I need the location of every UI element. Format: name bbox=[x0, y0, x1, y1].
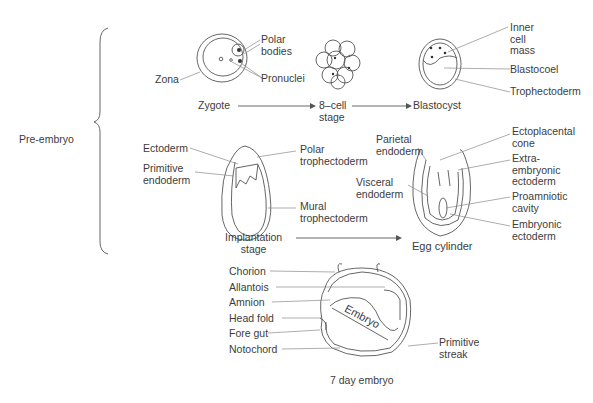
stage-name-8-cell: 8–cell stage bbox=[319, 100, 346, 123]
embryo-development-diagram bbox=[0, 0, 593, 403]
stage-name-blastocyst: Blastocyst bbox=[413, 100, 461, 112]
stage-name-zygote: Zygote bbox=[198, 100, 230, 112]
label-proamniotic-cavity: Proamniotic cavity bbox=[512, 191, 567, 214]
label-inner-cell-mass: Inner cell mass bbox=[510, 22, 535, 57]
label-primitive-endoderm: Primitive endoderm bbox=[143, 163, 190, 186]
label-allantois: Allantois bbox=[229, 282, 269, 294]
label-chorion: Chorion bbox=[229, 266, 266, 278]
label-visceral-endoderm: Visceral endoderm bbox=[356, 177, 403, 200]
pre-embryo-brace bbox=[94, 28, 108, 254]
egg-cylinder-drawing bbox=[408, 134, 510, 236]
label-notochord: Notochord bbox=[229, 344, 277, 356]
stage-name-egg-cylinder: Egg cylinder bbox=[412, 241, 473, 253]
label-fore-gut: Fore gut bbox=[229, 328, 268, 340]
label-trophectoderm: Trophectoderm bbox=[510, 86, 581, 98]
label-head-fold: Head fold bbox=[229, 313, 274, 325]
label-ectoplacental-cone: Ectoplacental cone bbox=[512, 126, 575, 149]
label-primitive-streak: Primitive streak bbox=[439, 337, 479, 360]
implantation-drawing bbox=[190, 146, 296, 240]
label-pronuclei: Pronuclei bbox=[261, 73, 305, 85]
stage-name-implantation: Implantation stage bbox=[225, 232, 282, 255]
stage-name-7-day-embryo: 7 day embryo bbox=[330, 375, 394, 387]
label-mural-trophectoderm: Mural trophectoderm bbox=[300, 201, 368, 224]
label-extraembryonic-ectoderm: Extra- embryonic ectoderm bbox=[512, 153, 560, 188]
label-amnion: Amnion bbox=[229, 297, 265, 309]
zygote-drawing bbox=[180, 34, 262, 82]
eight-cell-drawing bbox=[316, 40, 360, 89]
label-polar-trophectoderm: Polar trophectoderm bbox=[300, 144, 368, 167]
label-ectoderm: Ectoderm bbox=[143, 143, 188, 155]
group-label-pre-embryo: Pre-embryo bbox=[19, 134, 74, 146]
label-embryonic-ectoderm: Embryonic ectoderm bbox=[512, 219, 562, 242]
label-parietal-endoderm: Parietal endoderm bbox=[376, 134, 423, 157]
blastocyst-drawing bbox=[419, 27, 510, 92]
label-blastocoel: Blastocoel bbox=[510, 64, 558, 76]
label-zona: Zona bbox=[155, 74, 179, 86]
label-polar-bodies: Polar bodies bbox=[261, 34, 292, 57]
